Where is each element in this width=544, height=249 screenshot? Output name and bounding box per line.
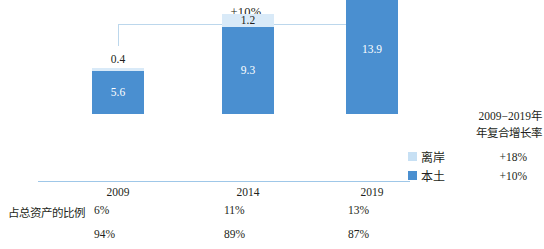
table-cell-local-2019: 87% (348, 228, 400, 240)
bar-segment-local-2019[interactable]: 13.9 (346, 0, 398, 114)
axis-label-2009: 2009 (92, 186, 144, 198)
legend: 2009−2019年 年复合增长率 离岸 +18% 本土 +10% (408, 108, 544, 185)
axis-baseline (38, 181, 410, 182)
bar-segment-local-2014[interactable]: 9.3 (222, 27, 274, 114)
table-cell-offshore-2019: 13% (348, 204, 400, 216)
table-cell-local-2014: 89% (224, 228, 276, 240)
legend-title-line1: 2009−2019年 (408, 108, 544, 125)
legend-value-local: +10% (463, 170, 527, 182)
bar-value-local-2019: 13.9 (362, 44, 382, 56)
legend-swatch-offshore-icon (408, 152, 417, 161)
table-cell-offshore-2009: 6% (94, 204, 146, 216)
axis-label-2014: 2014 (222, 186, 274, 198)
stacked-bar-2014[interactable]: 1.2 9.3 (222, 14, 274, 114)
bar-value-local-2009: 5.6 (111, 87, 125, 99)
legend-value-offshore: +18% (463, 151, 527, 163)
bar-value-offshore-2009: 0.4 (92, 54, 144, 66)
stacked-bar-2019[interactable]: 2.0 13.9 (346, 0, 398, 114)
table-row-label: 占总资产的比例 (8, 204, 85, 220)
bar-value-local-2014: 9.3 (241, 65, 255, 77)
legend-label-offshore: 离岸 (421, 148, 463, 166)
table-row-local-share: 94% 89% 87% (0, 228, 410, 246)
legend-item-local[interactable]: 本土 +10% (408, 166, 544, 185)
legend-label-local: 本土 (421, 167, 463, 185)
chart-canvas: +10% 0.4 5.6 2009 1.2 9.3 (0, 0, 544, 249)
bar-segment-offshore-2014[interactable]: 1.2 (222, 14, 274, 27)
stacked-bar-2009[interactable]: 0.4 5.6 (92, 68, 144, 114)
legend-item-offshore[interactable]: 离岸 +18% (408, 147, 544, 166)
legend-title-line2: 年复合增长率 (408, 125, 544, 142)
bar-value-offshore-2014: 1.2 (241, 15, 255, 27)
table-cell-offshore-2014: 11% (224, 204, 276, 216)
legend-swatch-local-icon (408, 171, 417, 180)
plot-area: 0.4 5.6 2009 1.2 9.3 2014 (0, 0, 410, 182)
legend-rows: 离岸 +18% 本土 +10% (408, 147, 544, 185)
bar-segment-local-2009[interactable]: 5.6 (92, 71, 144, 114)
axis-label-2019: 2019 (346, 186, 398, 198)
table-cell-local-2009: 94% (94, 228, 146, 240)
table-row-offshore-share: 占总资产的比例 6% 11% 13% (0, 204, 410, 222)
